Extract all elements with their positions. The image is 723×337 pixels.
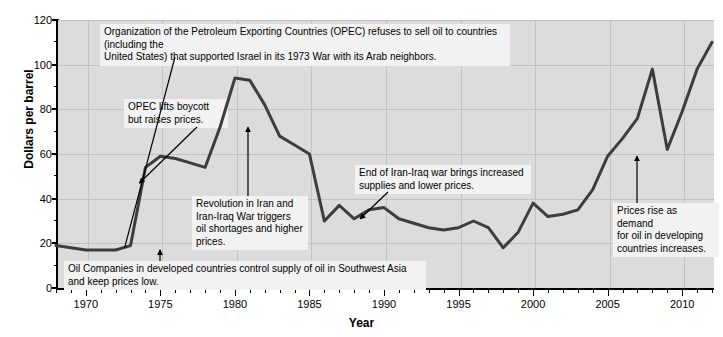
x-axis-tick-minor (518, 288, 519, 293)
gridline-horizontal (58, 199, 714, 200)
x-axis-tick-major (682, 288, 683, 296)
x-axis-tick-label: 1995 (446, 298, 470, 310)
x-axis-tick-minor (578, 288, 579, 293)
x-axis-tick-minor (488, 288, 489, 293)
x-axis-tick-minor (652, 288, 653, 293)
chart-figure: Dollars per barrel 020406080100120 19701… (0, 0, 723, 337)
x-axis-tick-minor (637, 288, 638, 293)
y-axis-ticks (0, 20, 60, 288)
x-axis-tick-minor (548, 288, 549, 293)
x-axis-tick-major (608, 288, 609, 296)
annotation-opec-embargo: Organization of the Petroleum Exporting … (100, 24, 510, 66)
x-axis-tick-label: 1980 (223, 298, 247, 310)
x-axis-ticks: 197019751980198519901995200020052010 (56, 288, 714, 308)
x-axis-tick-minor (563, 288, 564, 293)
x-axis-tick-label: 2005 (595, 298, 619, 310)
x-axis-tick-minor (593, 288, 594, 293)
gridline-horizontal (58, 154, 714, 155)
x-axis-tick-label: 2000 (521, 298, 545, 310)
x-axis-tick-minor (444, 288, 445, 293)
x-axis-tick-minor (473, 288, 474, 293)
x-axis-tick-label: 1970 (74, 298, 98, 310)
annotation-iran-iraq-war-end: End of Iran-Iraq war brings increased su… (355, 165, 531, 194)
x-axis-tick-label: 1975 (148, 298, 172, 310)
annotation-developing-demand: Prices rise as demand for oil in develop… (613, 203, 719, 257)
x-axis-tick-minor (667, 288, 668, 293)
x-axis-tick-label: 1990 (372, 298, 396, 310)
annotation-opec-lifts-boycott: OPEC lifts boycott but raises prices. (124, 99, 228, 128)
x-axis-tick-major (533, 288, 534, 296)
x-axis-title: Year (0, 316, 723, 330)
x-axis-tick-minor (712, 288, 713, 293)
x-axis-tick-minor (623, 288, 624, 293)
x-axis-tick-label: 2010 (670, 298, 694, 310)
annotation-oil-companies: Oil Companies in developed countries con… (64, 261, 426, 290)
x-axis-tick-minor (503, 288, 504, 293)
x-axis-tick-label: 1985 (297, 298, 321, 310)
x-axis-tick-minor (56, 288, 57, 293)
x-axis-tick-major (459, 288, 460, 296)
annotation-iran-revolution: Revolution in Iran and Iran-Iraq War tri… (192, 196, 308, 250)
gridline-horizontal (58, 20, 714, 21)
x-axis-tick-minor (697, 288, 698, 293)
x-axis-tick-minor (429, 288, 430, 293)
